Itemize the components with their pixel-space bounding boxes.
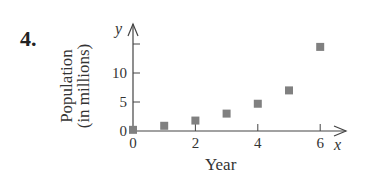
data-point (254, 100, 262, 108)
data-point (285, 86, 293, 94)
x-axis-name: x (333, 136, 341, 153)
y-tick-label: 10 (112, 65, 127, 81)
x-tick-label: 0 (129, 135, 137, 151)
y-tick-label: 0 (120, 123, 128, 139)
data-point (160, 122, 168, 130)
x-tick-label: 6 (316, 135, 324, 151)
scatter-plot: 05100246yx (0, 0, 368, 178)
y-axis-name: y (113, 20, 123, 38)
y-tick-label: 5 (120, 94, 128, 110)
x-tick-label: 4 (254, 135, 262, 151)
x-tick-label: 2 (192, 135, 200, 151)
data-point (316, 43, 324, 51)
data-point (223, 110, 231, 118)
x-axis-label: Year (205, 155, 236, 175)
data-point (129, 126, 137, 134)
data-point (191, 117, 199, 125)
